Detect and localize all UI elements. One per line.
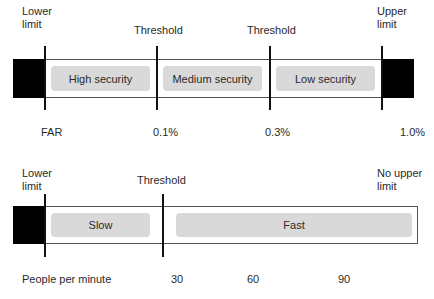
zone-low-security: Low security [276,66,375,91]
far-upper-limit-block [383,59,414,98]
far-lower-limit-block [13,59,45,98]
zone-high-security: High security [51,66,150,91]
zone-slow: Slow [51,213,150,237]
throughput-lower-limit-line [44,194,46,257]
far-upper-limit-line [381,46,383,110]
far-lower-limit-label: Lower limit [22,5,62,31]
throughput-tick-60: 60 [247,273,259,285]
zone-medium-security: Medium security [163,66,262,91]
far-lower-limit-line [44,46,46,110]
far-axis-label: FAR [41,126,62,138]
throughput-tick-30: 30 [171,273,183,285]
zone-fast: Fast [176,213,412,237]
throughput-tick-90: 90 [338,273,350,285]
far-threshold-1-line [156,46,158,110]
throughput-lower-limit-label: Lower limit [22,167,62,193]
throughput-upper-limit-label: No upper limit [377,167,427,193]
far-tick-0-3: 0.3% [265,126,290,138]
throughput-threshold-line [162,194,164,257]
throughput-axis-label: People per minute [22,273,111,285]
far-tick-0-1: 0.1% [153,126,178,138]
far-tick-1-0: 1.0% [400,126,425,138]
far-threshold-2-line [269,46,271,110]
throughput-lower-limit-block [13,206,45,244]
throughput-threshold-label: Threshold [137,174,186,186]
far-upper-limit-label: Upper limit [377,5,417,31]
far-threshold-2-label: Threshold [247,24,296,36]
far-threshold-1-label: Threshold [134,24,183,36]
